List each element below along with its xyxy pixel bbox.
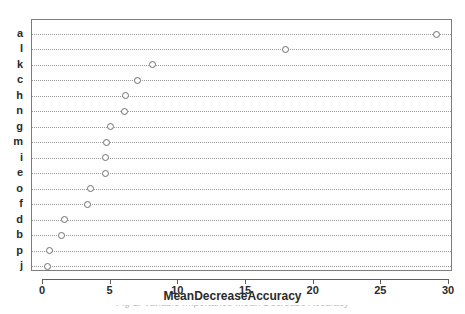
data-point-f [84,201,91,208]
y-axis-label-b: b [16,229,23,240]
gridline-c [32,80,451,81]
gridline-e [32,173,451,174]
data-point-p [46,247,53,254]
y-axis-labels: alkchngmieofdbpj [0,19,28,271]
gridline-d [32,220,451,221]
data-point-d [61,216,68,223]
data-point-j [44,263,51,270]
y-axis-label-o: o [16,182,23,193]
data-point-i [102,154,109,161]
variable-importance-dotplot: alkchngmieofdbpj 051015202530 MeanDecrea… [0,0,465,314]
plot-area [31,19,452,271]
y-axis-label-g: g [16,120,23,131]
y-axis-label-i: i [20,151,23,162]
gridline-o [32,189,451,190]
gridline-m [32,142,451,143]
data-point-l [282,46,289,53]
gridline-b [32,235,451,236]
gridline-g [32,127,451,128]
y-axis-label-k: k [17,58,23,69]
y-axis-label-a: a [17,28,23,39]
data-point-k [149,61,156,68]
gridline-k [32,65,451,66]
y-axis-label-d: d [16,213,23,224]
y-axis-label-j: j [20,260,23,271]
y-axis-label-n: n [16,105,23,116]
data-point-b [58,232,65,239]
gridline-h [32,96,451,97]
gridline-l [32,49,451,50]
y-axis-label-e: e [17,167,23,178]
figure-caption: Fig 1. Variable Importance Mean Decrease… [0,305,465,314]
gridline-n [32,111,451,112]
x-axis-title: MeanDecreaseAccuracy [0,289,465,303]
data-point-o [87,185,94,192]
y-axis-label-m: m [13,136,23,147]
data-point-n [121,108,128,115]
data-point-a [433,31,440,38]
y-axis-label-h: h [16,89,23,100]
gridline-i [32,158,451,159]
gridline-f [32,204,451,205]
gridline-p [32,251,451,252]
figure-caption-text: Fig 1. Variable Importance Mean Decrease… [0,305,465,308]
y-axis-label-p: p [16,244,23,255]
data-point-m [103,139,110,146]
gridline-a [32,34,451,35]
y-axis-label-f: f [19,198,23,209]
data-point-e [102,170,109,177]
gridline-j [32,266,451,267]
data-point-g [107,123,114,130]
y-axis-label-c: c [17,74,23,85]
data-point-h [122,92,129,99]
data-point-c [134,77,141,84]
y-axis-label-l: l [20,43,23,54]
